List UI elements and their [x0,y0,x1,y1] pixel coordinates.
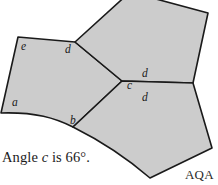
angle-statement: Angle c is 66°. [2,149,90,166]
label-a: a [12,96,18,108]
angle-statement-prefix: Angle [2,149,42,165]
label-c: c [127,79,132,91]
label-e: e [21,40,26,52]
label-d-upper-right: d [142,67,148,79]
angle-statement-suffix: is 66°. [48,149,90,165]
label-d-top-left: d [65,43,71,55]
awarding-body-logo: AQA [185,167,214,183]
label-b: b [70,114,76,126]
label-d-lower-right: d [142,91,148,103]
question-figure-page: e d a b c d d Angle c is 66°. AQA [0,0,218,185]
